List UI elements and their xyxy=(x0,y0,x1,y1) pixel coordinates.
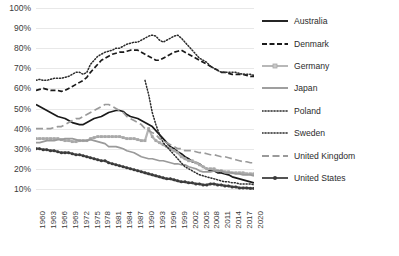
x-axis-tick-label: 1969 xyxy=(72,211,80,229)
series-marker xyxy=(133,168,136,171)
series-marker xyxy=(104,135,107,138)
legend-item-japan[interactable]: Japan xyxy=(262,77,397,99)
series-marker xyxy=(100,159,103,162)
series-marker xyxy=(191,159,194,162)
series-marker xyxy=(187,159,190,162)
x-axis-tick-label: 2011 xyxy=(224,211,232,228)
x-axis-tick-label: 1996 xyxy=(170,211,178,229)
legend-item-australia[interactable]: Australia xyxy=(262,10,397,32)
series-marker xyxy=(111,162,114,165)
series-marker xyxy=(49,137,52,140)
series-marker xyxy=(205,183,208,186)
series-marker xyxy=(144,171,147,174)
series-marker xyxy=(125,137,128,140)
y-axis-tick-label: 80% xyxy=(14,44,31,53)
x-axis-tick-label: 1963 xyxy=(50,211,58,229)
series-marker xyxy=(216,183,219,186)
series-marker xyxy=(194,161,197,164)
x-axis-tick-label: 2002 xyxy=(192,211,200,229)
legend-swatch-icon xyxy=(262,60,288,72)
series-marker xyxy=(67,139,70,142)
x-axis-tick-label: 1981 xyxy=(115,211,123,229)
series-marker xyxy=(140,170,143,173)
series-marker xyxy=(176,179,179,182)
legend-swatch-icon xyxy=(262,150,288,162)
series-marker xyxy=(53,149,56,152)
plot-area xyxy=(36,8,254,209)
series-marker xyxy=(180,180,183,183)
legend-item-sweden[interactable]: Sweden xyxy=(262,122,397,144)
series-marker xyxy=(227,184,230,187)
series-marker xyxy=(194,182,197,185)
series-marker xyxy=(78,153,81,156)
x-axis-tick-label: 1960 xyxy=(39,211,47,229)
series-marker xyxy=(100,135,103,138)
series-marker xyxy=(154,174,157,177)
chart-legend: AustraliaDenmarkGermanyJapanPolandSweden… xyxy=(262,10,397,189)
series-marker xyxy=(136,169,139,172)
legend-swatch-icon xyxy=(262,15,288,27)
y-axis-tick-label: 40% xyxy=(14,125,31,134)
legend-item-poland[interactable]: Poland xyxy=(262,100,397,122)
series-marker xyxy=(38,137,41,140)
series-marker xyxy=(49,149,52,152)
series-marker xyxy=(85,155,88,158)
series-marker xyxy=(133,137,136,140)
series-marker xyxy=(104,159,107,162)
legend-item-label: Poland xyxy=(294,106,321,116)
x-axis-tick-label: 1999 xyxy=(181,211,189,229)
series-marker xyxy=(125,166,128,169)
series-marker xyxy=(173,149,176,152)
legend-item-united-states[interactable]: United States xyxy=(262,167,397,189)
series-marker xyxy=(205,167,208,170)
y-axis-labels: 100%90%80%70%60%50%40%30%20%10% xyxy=(0,0,34,209)
y-axis-tick-label: 30% xyxy=(14,145,31,154)
series-marker xyxy=(183,180,186,183)
series-marker xyxy=(198,163,201,166)
x-axis-tick-label: 2005 xyxy=(203,211,211,229)
legend-item-label: Australia xyxy=(294,16,327,26)
series-marker xyxy=(234,185,237,188)
legend-item-united-kingdom[interactable]: United Kingdom xyxy=(262,144,397,166)
series-marker xyxy=(93,136,96,139)
y-axis-tick-label: 70% xyxy=(14,64,31,73)
legend-item-denmark[interactable]: Denmark xyxy=(262,32,397,54)
x-axis-tick-label: 1990 xyxy=(148,211,156,229)
series-line xyxy=(36,129,254,174)
series-marker xyxy=(202,183,205,186)
series-marker xyxy=(147,172,150,175)
legend-item-germany[interactable]: Germany xyxy=(262,55,397,77)
legend-item-label: Sweden xyxy=(294,128,325,138)
series-lines xyxy=(36,8,254,209)
series-marker xyxy=(209,182,212,185)
y-axis-tick-label: 50% xyxy=(14,105,31,114)
series-marker xyxy=(107,161,110,164)
series-marker xyxy=(191,181,194,184)
series-marker xyxy=(115,135,118,138)
series-marker xyxy=(111,135,114,138)
series-marker xyxy=(67,151,70,154)
series-marker xyxy=(89,156,92,159)
x-axis-tick-label: 2014 xyxy=(235,211,243,229)
series-marker xyxy=(173,178,176,181)
series-marker xyxy=(238,186,241,189)
series-marker xyxy=(38,147,41,150)
series-marker xyxy=(180,155,183,158)
series-marker xyxy=(184,157,187,160)
series-marker xyxy=(231,185,234,188)
legend-swatch-icon xyxy=(262,105,288,117)
x-axis-tick-label: 1987 xyxy=(137,211,145,229)
series-marker xyxy=(136,138,139,141)
series-marker xyxy=(187,181,190,184)
series-marker xyxy=(140,139,143,142)
series-marker xyxy=(144,139,147,142)
x-axis-labels: 1960196319661969197219751978198119841987… xyxy=(36,211,254,256)
series-marker xyxy=(64,151,67,154)
y-axis-tick-label: 20% xyxy=(14,165,31,174)
series-marker xyxy=(56,150,59,153)
series-marker xyxy=(82,154,85,157)
series-marker xyxy=(202,165,205,168)
series-marker xyxy=(213,182,216,185)
series-marker xyxy=(36,137,37,140)
series-marker xyxy=(165,177,168,180)
